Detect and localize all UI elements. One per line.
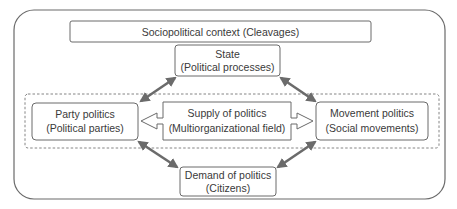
- context-label: Sociopolitical context (Cleavages): [142, 26, 300, 38]
- party-subtitle: (Political parties): [46, 122, 124, 134]
- state-title: State: [215, 48, 240, 60]
- movement-subtitle: (Social movements): [326, 122, 419, 134]
- political-supply-demand-diagram: Sociopolitical context (Cleavages) State…: [0, 0, 457, 209]
- party-title: Party politics: [55, 108, 115, 120]
- state-subtitle: (Political processes): [181, 61, 275, 73]
- context-box: Sociopolitical context (Cleavages): [70, 21, 371, 42]
- demand-movement-double-arrow-icon: [278, 142, 315, 167]
- movement-politics-box: Movement politics (Social movements): [316, 102, 428, 140]
- party-politics-box: Party politics (Political parties): [32, 103, 138, 140]
- demand-subtitle: (Citizens): [206, 182, 250, 194]
- demand-of-politics-box: Demand of politics (Citizens): [180, 167, 276, 196]
- state-box: State (Political processes): [175, 45, 280, 76]
- supply-subtitle: (Multiorganizational field): [169, 122, 286, 134]
- state-movement-double-arrow-icon: [281, 78, 315, 101]
- demand-title: Demand of politics: [185, 169, 271, 181]
- supply-of-politics-box: Supply of politics (Multiorganizational …: [141, 102, 313, 140]
- party-demand-double-arrow-icon: [139, 142, 177, 167]
- supply-title: Supply of politics: [188, 107, 267, 119]
- party-state-double-arrow-icon: [141, 78, 175, 101]
- movement-title: Movement politics: [330, 107, 414, 119]
